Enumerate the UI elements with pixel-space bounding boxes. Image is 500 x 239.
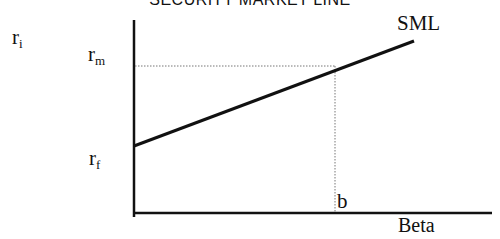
sml-line bbox=[134, 41, 414, 146]
rm-label-sub: m bbox=[95, 53, 105, 68]
y-axis-label-sub: i bbox=[19, 36, 23, 51]
beta-marker-label: b bbox=[337, 189, 348, 214]
rf-label: rf bbox=[89, 148, 100, 171]
y-axis-label-symbol: r bbox=[12, 25, 19, 49]
rf-label-symbol: r bbox=[89, 146, 96, 170]
rm-label-symbol: r bbox=[88, 42, 95, 66]
x-axis-label: Beta bbox=[398, 214, 435, 237]
rm-label: rm bbox=[88, 44, 105, 67]
y-axis-label: ri bbox=[12, 27, 23, 50]
sml-label: SML bbox=[397, 11, 440, 36]
rf-label-sub: f bbox=[96, 157, 100, 172]
